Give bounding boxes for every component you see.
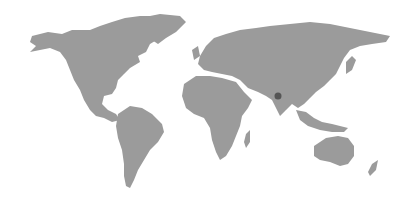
location-marker	[275, 93, 282, 100]
british-isles	[192, 46, 200, 60]
australia	[314, 136, 354, 166]
madagascar	[244, 130, 250, 148]
southeast-asia	[296, 110, 348, 132]
new-zealand	[368, 160, 378, 176]
world-map-svg	[0, 0, 417, 202]
south-america	[116, 106, 164, 188]
world-map	[0, 0, 417, 202]
africa	[182, 76, 252, 160]
japan	[346, 56, 356, 74]
